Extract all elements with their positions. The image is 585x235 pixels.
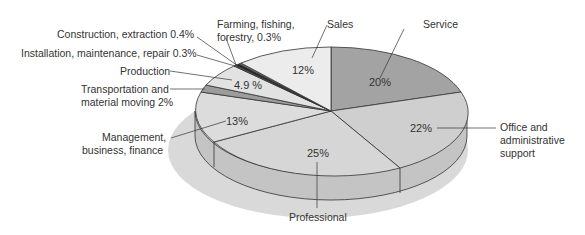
label-construction: Construction, extraction 0.4% [57, 28, 194, 40]
pct-office: 22% [410, 122, 432, 134]
pie-top [196, 47, 469, 176]
label-farming-2: forestry, 0.3% [217, 31, 281, 43]
label-service: Service [423, 18, 458, 30]
label-office-2: administrative [500, 134, 565, 146]
pct-production: 4.9 % [234, 79, 262, 91]
label-sales: Sales [327, 18, 353, 30]
label-office-1: Office and [500, 121, 548, 133]
label-installation: Installation, maintenance, repair 0.3% [21, 47, 197, 59]
label-office-3: support [500, 147, 535, 159]
pct-management: 13% [226, 115, 248, 127]
label-transport-2: material moving 2% [81, 96, 173, 108]
pct-professional: 25% [307, 147, 329, 159]
label-management-1: Management, [102, 131, 166, 143]
pct-service: 20% [369, 76, 391, 88]
pie-chart: Construction, extraction 0.4% Installati… [0, 0, 585, 235]
label-management-2: business, finance [82, 144, 163, 156]
pct-sales: 12% [292, 64, 314, 76]
label-professional: Professional [289, 211, 347, 223]
label-farming-1: Farming, fishing, [217, 18, 295, 30]
label-transport-1: Transportation and [81, 83, 169, 95]
label-production: Production [120, 65, 170, 77]
